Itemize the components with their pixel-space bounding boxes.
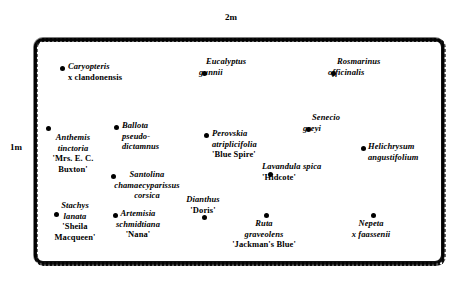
plant-label-ballota: Ballotapseudo-dictamnus (122, 120, 159, 152)
plant-label-line: schmidtiana (105, 219, 171, 230)
plant-label-line: angustifolium (368, 152, 418, 163)
plant-label-line: 'Nana' (105, 229, 171, 240)
plant-label-line: tinctoria (40, 143, 106, 154)
plant-label-line: Macqueen' (46, 232, 104, 243)
plant-label-line: chamaecyparissus (101, 180, 193, 191)
plant-label-ruta: Rutagraveolens'Jackman's Blue' (226, 218, 302, 250)
plant-label-line: Helichrysum (368, 141, 418, 152)
plant-label-line: 'Blue Spire' (212, 149, 257, 160)
plant-marker-helichrysum[interactable] (361, 146, 366, 151)
plant-label-stachys: Stachyslanata'SheilaMacqueen' (46, 200, 104, 242)
plant-label-line: Stachys (46, 200, 104, 211)
plant-label-line: Perovskia (212, 128, 257, 139)
plant-label-line: x clandonensis (68, 72, 122, 83)
plant-label-line: pseudo- (122, 131, 159, 142)
plant-label-line: Rosmarinus (328, 56, 381, 67)
plant-label-perovskia: Perovskiaatriplicifolia'Blue Spire' (212, 128, 257, 160)
plant-label-rosmarinus: Rosmarinusofficinalis (328, 56, 381, 77)
plant-label-nepeta: Nepetax faassenii (340, 218, 402, 239)
plant-marker-perovskia[interactable] (204, 133, 209, 138)
plant-label-artemisia: Artemisiaschmidtiana'Nana' (105, 208, 171, 240)
plant-label-caryopteris: Caryopterisx clandonensis (68, 61, 122, 82)
plant-label-line: greyi (303, 123, 340, 134)
plant-label-line: Anthemis (40, 132, 106, 143)
plant-label-line: 'Mrs. E. C. (40, 153, 106, 164)
plant-label-line: gunnii (199, 67, 246, 78)
plant-label-line: Eucalyptus (199, 56, 246, 67)
plant-marker-anthemis[interactable] (46, 126, 51, 131)
plant-label-line: Lavandula spica (262, 161, 321, 172)
plant-marker-caryopteris[interactable] (60, 66, 65, 71)
plant-label-line: Dianthus (180, 194, 226, 205)
plant-label-line: lanata (46, 211, 104, 222)
plant-label-line: 'Hidcote' (262, 172, 321, 183)
plant-label-line: Caryopteris (68, 61, 122, 72)
plant-label-line: Artemisia (105, 208, 171, 219)
plant-label-eucalyptus: Eucalyptusgunnii (199, 56, 246, 77)
plant-label-line: x faassenii (340, 229, 402, 240)
plant-label-line: graveolens (226, 229, 302, 240)
plant-label-helichrysum: Helichrysumangustifolium (368, 141, 418, 162)
plant-label-dianthus: Dianthus'Doris' (180, 194, 226, 215)
plant-label-line: atriplicifolia (212, 139, 257, 150)
plant-label-line: 'Sheila (46, 221, 104, 232)
plant-label-line: 'Doris' (180, 205, 226, 216)
scale-label-height: 1m (10, 142, 22, 152)
plant-label-anthemis: Anthemistinctoria'Mrs. E. C.Buxton' (40, 132, 106, 174)
garden-planting-plan: 2m 1m Caryopterisx clandonensisEucalyptu… (0, 0, 472, 296)
plant-label-line: dictamnus (122, 141, 159, 152)
plant-label-line: Senecio (303, 112, 340, 123)
plant-label-senecio: Seneciogreyi (303, 112, 340, 133)
plant-label-line: 'Jackman's Blue' (226, 239, 302, 250)
plant-label-lavandula: Lavandula spica'Hidcote' (262, 161, 321, 182)
plant-label-line: Buxton' (40, 164, 106, 175)
plant-marker-dianthus[interactable] (202, 215, 207, 220)
plant-label-line: officinalis (328, 67, 381, 78)
plant-label-line: Ballota (122, 120, 159, 131)
plant-marker-ballota[interactable] (114, 125, 119, 130)
plant-label-line: Nepeta (340, 218, 402, 229)
plant-label-line: Ruta (226, 218, 302, 229)
scale-label-width: 2m (225, 12, 237, 22)
plant-label-line: Santolina (101, 169, 193, 180)
